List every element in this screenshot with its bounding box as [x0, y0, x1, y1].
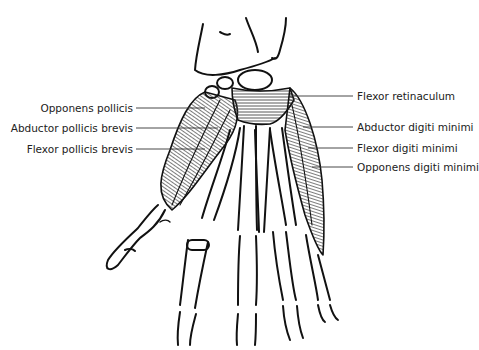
label-abductor-pollicis-brevis: Abductor pollicis brevis — [11, 122, 133, 134]
label-opponens-pollicis: Opponens pollicis — [40, 102, 133, 114]
label-flexor-retinaculum: Flexor retinaculum — [357, 90, 455, 102]
label-flexor-digiti-minimi: Flexor digiti minimi — [357, 142, 458, 154]
label-abductor-digiti-minimi: Abductor digiti minimi — [357, 121, 474, 133]
label-opponens-digiti-minimi: Opponens digiti minimi — [357, 161, 479, 173]
radius-ulna — [195, 18, 286, 75]
thumb — [107, 205, 165, 269]
flexor-retinaculum — [232, 88, 294, 124]
thenar-muscles — [161, 92, 238, 210]
label-flexor-pollicis-brevis: Flexor pollicis brevis — [27, 143, 133, 155]
